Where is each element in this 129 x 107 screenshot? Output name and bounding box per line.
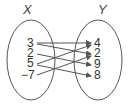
arrow-5-to-4	[37, 45, 91, 64]
arrow-2-to-9	[37, 54, 91, 65]
arrow-neg7-to-2	[37, 56, 91, 75]
domain-value: −7	[21, 68, 35, 82]
mapping-diagram: X Y 3 2 5 −7 4 2 9 8	[0, 0, 129, 107]
arrow-3-to-2	[37, 44, 91, 54]
domain-set-label: X	[22, 2, 33, 17]
range-set-label: Y	[98, 2, 108, 17]
arrow-5-to-8	[37, 65, 91, 76]
range-value: 8	[94, 68, 101, 82]
